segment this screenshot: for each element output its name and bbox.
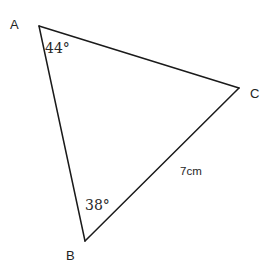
- triangle-edge-ab: [39, 26, 85, 241]
- triangle-diagram: A B C 44° 38° 7cm: [0, 0, 273, 277]
- angle-label-b: 38°: [85, 198, 110, 212]
- vertex-label-a: A: [10, 18, 19, 31]
- angle-label-a: 44°: [45, 41, 70, 55]
- vertex-label-c: C: [250, 87, 259, 100]
- triangle-edge-ac: [39, 26, 239, 88]
- triangle-shape: [0, 0, 273, 277]
- vertex-label-b: B: [66, 249, 75, 262]
- side-length-label-bc: 7cm: [180, 166, 202, 178]
- triangle-edge-bc: [85, 88, 239, 241]
